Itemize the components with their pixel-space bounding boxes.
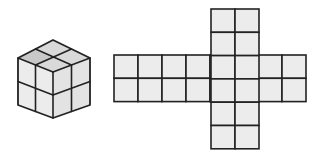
net-vertical-cell bbox=[235, 79, 259, 102]
cube-and-net-diagram bbox=[0, 0, 320, 155]
net-vertical-cell bbox=[235, 9, 259, 32]
net-horizontal-cell bbox=[138, 78, 162, 101]
net-vertical-cell bbox=[235, 32, 259, 55]
net-vertical-cell bbox=[211, 126, 235, 149]
net-vertical-cell bbox=[211, 102, 235, 125]
net-vertical-cell bbox=[235, 102, 259, 125]
net-horizontal-cell bbox=[258, 55, 282, 78]
net-vertical-cell bbox=[211, 9, 235, 32]
net-horizontal-cell bbox=[114, 78, 138, 101]
net-vertical-cell bbox=[235, 56, 259, 79]
net-horizontal-cell bbox=[282, 78, 306, 101]
net-horizontal-cell bbox=[114, 55, 138, 78]
net-vertical-cell bbox=[211, 79, 235, 102]
net-horizontal-cell bbox=[282, 55, 306, 78]
net-horizontal-cell bbox=[186, 78, 210, 101]
net-horizontal-cell bbox=[162, 55, 186, 78]
net-vertical-cell bbox=[235, 126, 259, 149]
net-horizontal-cell bbox=[186, 55, 210, 78]
cube-drawing bbox=[18, 40, 90, 118]
net-horizontal-cell bbox=[258, 78, 282, 101]
net-vertical-cell bbox=[211, 56, 235, 79]
net-horizontal-cell bbox=[138, 55, 162, 78]
net-vertical-cell bbox=[211, 32, 235, 55]
net-horizontal-cell bbox=[162, 78, 186, 101]
cube-net-drawing bbox=[114, 9, 306, 149]
